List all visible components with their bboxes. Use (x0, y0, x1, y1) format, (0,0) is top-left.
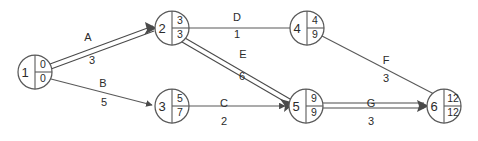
edge-D-label: D (233, 11, 241, 23)
edge-F-duration: 3 (383, 72, 389, 84)
edge-D-duration: 1 (234, 28, 240, 40)
edge-B-label: B (99, 77, 106, 89)
diagram-canvas: A 3 B 5 C 2 D 1 E 6 (0, 0, 478, 141)
node-6[interactable]: 6 12 12 (427, 89, 461, 123)
edge-G[interactable]: G 3 (323, 97, 429, 127)
edge-D[interactable]: D 1 (189, 11, 290, 40)
node-1[interactable]: 1 0 0 (18, 55, 52, 89)
edge-E[interactable]: E 6 (182, 38, 295, 112)
node-1-id: 1 (21, 65, 28, 80)
node-4-early: 4 (312, 14, 318, 26)
node-6-early: 12 (447, 92, 459, 104)
node-2-late: 3 (177, 28, 183, 40)
node-5-id: 5 (292, 99, 299, 114)
node-4-id: 4 (293, 21, 300, 36)
node-3-late: 7 (177, 106, 183, 118)
node-1-early: 0 (40, 58, 46, 70)
node-2[interactable]: 2 3 3 (155, 11, 189, 45)
node-4[interactable]: 4 4 9 (290, 11, 324, 45)
edge-B[interactable]: B 5 (51, 77, 152, 108)
edge-A-line-lower (51, 31, 154, 69)
node-3[interactable]: 3 5 7 (155, 89, 189, 123)
edge-F-label: F (383, 54, 390, 66)
edge-G-label: G (367, 97, 376, 109)
node-6-late: 12 (447, 106, 459, 118)
node-5-late: 9 (311, 106, 317, 118)
edge-F-line (322, 36, 434, 94)
edge-B-duration: 5 (101, 96, 107, 108)
edge-F[interactable]: F 3 (322, 36, 434, 94)
edge-E-line-lower (182, 42, 287, 103)
node-4-late: 9 (312, 28, 318, 40)
node-5-early: 9 (311, 92, 317, 104)
edge-A-duration: 3 (89, 54, 95, 66)
node-3-id: 3 (158, 99, 165, 114)
node-2-early: 3 (177, 14, 183, 26)
edge-C[interactable]: C 2 (189, 97, 285, 127)
edge-C-label: C (220, 97, 228, 109)
node-5[interactable]: 5 9 9 (289, 89, 323, 123)
network-diagram-svg: A 3 B 5 C 2 D 1 E 6 (0, 0, 478, 141)
edge-C-duration: 2 (221, 115, 227, 127)
edge-A-label: A (84, 31, 92, 43)
node-1-late: 0 (40, 72, 46, 84)
edge-E-duration: 6 (239, 70, 245, 82)
edge-A[interactable]: A 3 (50, 22, 157, 69)
node-3-early: 5 (177, 92, 183, 104)
edge-E-line-upper (185, 38, 290, 99)
node-6-id: 6 (430, 99, 437, 114)
edge-G-duration: 3 (368, 115, 374, 127)
edge-A-line-upper (50, 26, 153, 64)
edge-E-label: E (239, 48, 246, 60)
node-2-id: 2 (158, 21, 165, 36)
